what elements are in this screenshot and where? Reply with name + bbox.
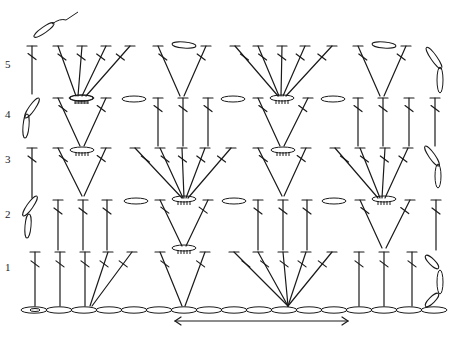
row4-v-dc [84,98,111,146]
row5-fan-dc [283,46,310,96]
stitch-stem [384,46,406,96]
row3-fan-dc [385,148,413,198]
row2-v-dc [386,200,415,248]
row-label-1: 1 [5,261,11,273]
stitch-slash [401,208,409,214]
row1-fan-dc [253,252,288,306]
stitch-slash [361,208,369,214]
stitch-stem [58,98,80,146]
row5-v-dc [353,46,380,96]
stitch-stem [360,200,382,248]
row5-dc [27,46,37,94]
stitch-stem [284,98,308,146]
row4-dc [178,98,188,146]
row-label-4: 4 [5,108,11,120]
row1-fan-dc [288,252,311,306]
row3-dc [27,148,37,198]
row1-v-dc [185,252,210,306]
row5-v-dc [153,46,180,96]
stitch-stem [258,148,282,196]
stitch-stem [284,148,306,196]
stitch-slash [199,207,207,213]
row5-fan-dc [82,46,111,96]
foundation-chain-stitch [21,307,47,313]
chain-stitch [124,198,148,204]
stitch-stem [186,200,208,246]
stitch-slash [218,156,226,162]
stitch-stem [182,148,184,198]
stitch-stem [184,46,206,96]
stitch-stem [82,46,106,96]
stitch-stem [58,148,82,196]
stitch-slash [97,54,105,60]
stitch-slash [116,54,124,60]
chain-stitch [222,198,246,204]
row4-v-dc [284,98,313,146]
chain-stitch [372,41,396,49]
stitch-stem [86,46,130,96]
foundation-chain-stitch [71,307,97,313]
chain-stitch [322,198,346,204]
foundation-chain-stitch [371,307,397,313]
stitch-stem [385,148,408,198]
foundation-chain-stitch [146,307,172,313]
stitch-slash [100,261,108,267]
stitch-slash [259,156,267,162]
turning-chain-stitch [24,214,32,238]
stitch-slash [360,156,368,162]
foundation-chain-stitch [121,307,147,313]
stitch-stem [185,252,205,306]
row5-fan-dc [277,46,287,96]
row2-dc [431,200,441,250]
stitch-slash [97,156,105,162]
stitch-stem [386,200,410,248]
row2-dc [78,200,88,250]
row2-dc [53,200,63,250]
chain-stitch [221,96,245,102]
stitch-stem [358,46,380,96]
row5-fan-dc [230,46,278,96]
row-label-2: 2 [5,208,11,220]
row1-dc [80,252,90,306]
turning-chain-stitch [22,114,30,138]
stitch-slash [161,156,169,162]
foundation-chain-stitch [396,307,422,313]
stitch-slash [318,54,326,60]
row1-dc [354,252,364,306]
row3-v-dc [53,148,82,196]
foundation-chain-stitch [221,307,247,313]
stitch-slash [359,54,367,60]
stitch-stem [286,46,332,96]
stitch-slash [259,106,267,112]
stitch-stem [281,46,282,96]
row2-dc [253,200,263,250]
row3-fan-dc [130,148,182,198]
stitch-stem [188,148,231,198]
turning-chain-stitch [435,164,441,188]
row3-fan-dc [186,148,210,198]
stitch-stem [186,148,205,198]
foundation-chain-stitch [321,307,347,313]
row5-v-dc [384,46,411,96]
row4-v-dc [53,98,80,146]
foundation-chain-stitch [196,307,222,313]
row3-v-dc [284,148,311,196]
stitch-slash [197,156,205,162]
row3-fan-dc [330,148,378,198]
row4-dc [353,98,363,146]
stitch-slash [340,156,348,162]
row1-fan-dc [229,252,288,306]
stitch-slash [159,54,167,60]
row3-fan-dc [177,148,187,198]
stitch-stem [234,252,288,306]
turning-chain-stitch [424,254,441,271]
foundation-chain-stitch [271,307,297,313]
stitch-stem [382,148,385,198]
stitch-stem [84,98,106,146]
turning-chain-stitch [424,292,441,309]
row1-fan-dc [90,252,113,306]
foundation-chain-stitch [46,307,72,313]
stitch-slash [197,261,205,267]
row2-dc [302,200,312,250]
stitch-slash [296,54,304,60]
